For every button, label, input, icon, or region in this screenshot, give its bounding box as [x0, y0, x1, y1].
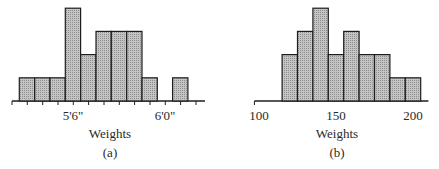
histogram-bar: [96, 31, 111, 101]
histogram-b: [254, 8, 428, 105]
tick-label-5-6: 5'6": [63, 108, 84, 123]
tick-label-150: 150: [326, 108, 346, 123]
histogram-bar: [359, 55, 374, 101]
histogram-bar: [65, 8, 80, 101]
histogram-bar: [127, 31, 142, 101]
histogram-bar: [142, 78, 157, 101]
tick-label-6-0: 6'0": [155, 108, 176, 123]
tick-label-100: 100: [249, 108, 269, 123]
histogram-a: [12, 8, 205, 105]
histogram-bar: [173, 78, 188, 101]
histogram-bar: [19, 78, 34, 101]
histogram-bar: [344, 31, 359, 101]
x-axis-label-a: Weights: [89, 126, 131, 141]
histogram-bar: [298, 31, 313, 101]
histogram-figure: 5'6" 6'0" Weights (a) 100 150 200 Weight…: [0, 0, 439, 169]
histogram-bar: [313, 8, 328, 101]
x-axis-label-b: Weights: [316, 126, 358, 141]
histogram-bar: [81, 55, 96, 101]
histogram-bar: [375, 55, 390, 101]
panel-caption-b: (b): [329, 145, 344, 160]
histogram-bar: [50, 78, 65, 101]
histogram-bar: [282, 55, 297, 101]
histogram-bar: [390, 78, 405, 101]
tick-label-200: 200: [403, 108, 423, 123]
histogram-bar: [111, 31, 126, 101]
histogram-bar: [405, 78, 420, 101]
panel-caption-a: (a): [103, 145, 117, 160]
histogram-bar: [35, 78, 50, 101]
histogram-bar: [328, 55, 343, 101]
